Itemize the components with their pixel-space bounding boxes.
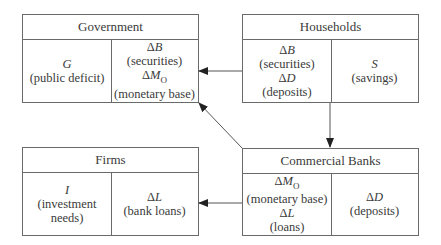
arrow-banks-to-government	[199, 103, 242, 148]
flow-arrows	[0, 0, 441, 245]
